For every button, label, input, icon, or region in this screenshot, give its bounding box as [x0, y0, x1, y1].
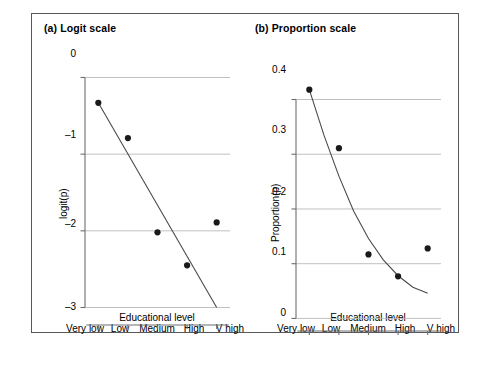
- chart-panel-proportion-scale: (b) Proportion scale Proportion(p) Educa…: [246, 14, 460, 334]
- chart-panel-logit-scale: (a) Logit scale logit(p) Educational lev…: [32, 14, 246, 334]
- data-point: [395, 273, 401, 279]
- data-point: [336, 145, 342, 151]
- data-point: [214, 219, 220, 225]
- fitted-line: [309, 90, 427, 294]
- plot-area-b: [246, 14, 460, 334]
- plot-area-a: [32, 14, 246, 334]
- data-point: [184, 262, 190, 268]
- fitted-line: [98, 103, 216, 308]
- data-point: [365, 251, 371, 257]
- data-point: [306, 87, 312, 93]
- data-point: [425, 245, 431, 251]
- data-point: [95, 100, 101, 106]
- data-point: [125, 135, 131, 141]
- figure-panel-container: (a) Logit scale logit(p) Educational lev…: [31, 13, 459, 333]
- data-point: [154, 229, 160, 235]
